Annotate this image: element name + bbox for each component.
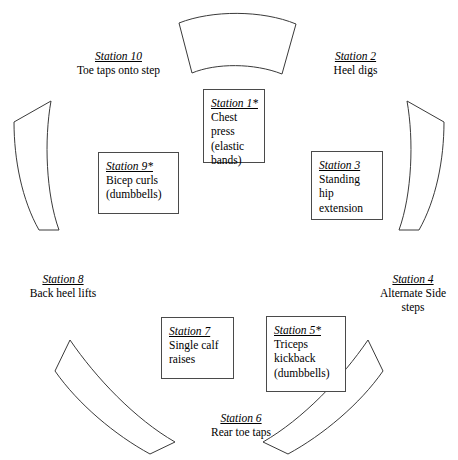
station-label-station6: Station 6 Rear toe taps <box>182 411 300 439</box>
station-title: Station 8 <box>2 272 124 286</box>
station-label-station10: Station 10 Toe taps onto step <box>56 49 181 77</box>
station-label-station8: Station 8 Back heel lifts <box>2 272 124 300</box>
station-title: Station 6 <box>182 411 300 425</box>
station-label-station4: Station 4 Alternate Side steps <box>368 272 458 315</box>
station-label-station2: Station 2 Heel digs <box>303 49 408 77</box>
station-description: Back heel lifts <box>2 286 124 300</box>
station-description: Standing hip extension <box>319 172 375 215</box>
station-title: Station 10 <box>56 49 181 63</box>
station-title: Station 4 <box>368 272 458 286</box>
station-title: Station 3 <box>319 158 375 172</box>
station-description: Single calf raises <box>169 338 226 366</box>
station-box-station9: Station 9* Bicep curls (dumbbells) <box>98 152 179 214</box>
station-title: Station 7 <box>169 324 226 338</box>
circuit-diagram-page: Station 1* Chest press (elastic bands) S… <box>0 0 458 460</box>
arc-segment-lower-left <box>55 340 175 454</box>
station-description: Chest press (elastic bands) <box>211 110 257 167</box>
station-description: Bicep curls (dumbbells) <box>106 173 171 201</box>
station-description: Rear toe taps <box>182 425 300 439</box>
station-box-station3: Station 3 Standing hip extension <box>311 151 383 220</box>
station-description: Alternate Side steps <box>368 286 458 314</box>
station-description: Heel digs <box>303 63 408 77</box>
station-title: Station 5* <box>274 323 338 337</box>
station-box-station7: Station 7 Single calf raises <box>161 317 234 379</box>
station-title: Station 2 <box>303 49 408 63</box>
station-description: Toe taps onto step <box>56 63 181 77</box>
arc-segment-top <box>179 13 296 74</box>
station-box-station1: Station 1* Chest press (elastic bands) <box>203 89 265 163</box>
arc-segment-upper-right <box>399 101 444 230</box>
station-description: Triceps kickback (dumbbells) <box>274 337 338 380</box>
arc-segment-upper-left <box>14 101 59 230</box>
station-title: Station 9* <box>106 159 171 173</box>
station-title: Station 1* <box>211 96 257 110</box>
station-box-station5: Station 5* Triceps kickback (dumbbells) <box>266 316 346 392</box>
